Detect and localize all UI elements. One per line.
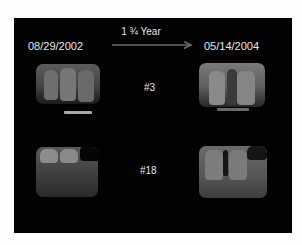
xray-tooth-3-before-restoration — [64, 111, 92, 114]
tooth-label-18: #18 — [140, 165, 157, 176]
xray-tooth-18-before — [36, 147, 98, 197]
xray-tooth-18-after — [199, 146, 267, 198]
start-date-label: 08/29/2002 — [28, 40, 83, 52]
slide-panel: 08/29/2002 05/14/2004 1 ¾ Year #3 #18 — [14, 18, 292, 233]
interval-label: 1 ¾ Year — [2, 26, 280, 37]
arrow-right-icon — [112, 41, 194, 49]
xray-tooth-3-before — [36, 64, 100, 104]
end-date-label: 05/14/2004 — [204, 40, 259, 52]
xray-tooth-3-after — [199, 63, 265, 107]
xray-tooth-3-after-restoration — [217, 108, 249, 111]
tooth-label-3: #3 — [144, 82, 155, 93]
